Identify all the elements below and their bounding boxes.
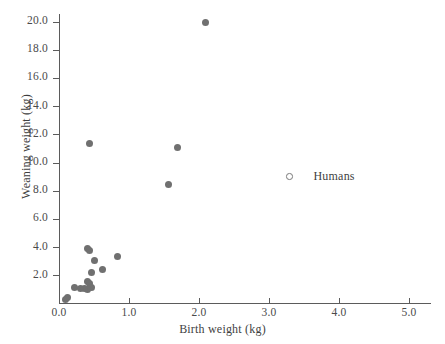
data-point — [174, 144, 181, 151]
data-point — [91, 257, 98, 264]
data-point — [71, 284, 78, 291]
legend-humans-marker-icon — [286, 173, 293, 180]
plot-data-area — [0, 0, 445, 344]
scatter-plot-figure: 2.04.06.08.010.012.014.016.018.020.0 0.0… — [0, 0, 445, 344]
legend-humans-label: Humans — [314, 169, 355, 184]
legend: Humans — [286, 169, 355, 184]
data-point — [86, 140, 93, 147]
data-point — [62, 296, 69, 303]
data-point — [86, 247, 93, 254]
data-point — [114, 253, 121, 260]
data-point — [202, 19, 209, 26]
data-point — [88, 269, 95, 276]
data-point — [99, 266, 106, 273]
data-point — [165, 181, 172, 188]
